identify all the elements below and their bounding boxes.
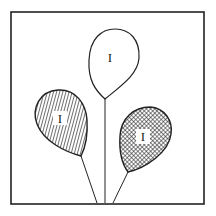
balloon-top xyxy=(89,29,139,99)
balloon-top-label: I xyxy=(108,50,112,65)
balloon-diagram: I I I xyxy=(0,0,216,216)
string-right xyxy=(113,172,128,203)
string-left xyxy=(81,156,97,203)
balloon-right-label: I xyxy=(141,129,145,144)
balloon-left-label: I xyxy=(58,111,62,126)
